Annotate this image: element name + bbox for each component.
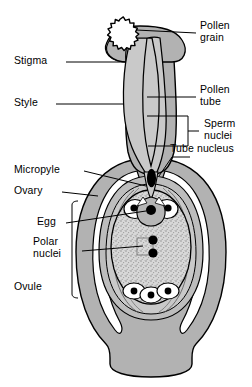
diagram-canvas: Stigma Style Micropyle Ovary Egg Polar n…: [0, 0, 252, 387]
sperm-nuclei: [148, 121, 154, 131]
label-ovary: Ovary: [14, 185, 43, 197]
label-polar-nuclei: Polar nuclei: [33, 236, 61, 259]
egg-nucleus: [146, 205, 156, 215]
label-micropyle: Micropyle: [14, 164, 60, 176]
label-pollen-grain: Pollen grain: [200, 20, 230, 43]
label-ovule: Ovule: [14, 281, 42, 293]
label-style: Style: [14, 97, 38, 109]
label-tube-nucleus: Tube nucleus: [170, 143, 234, 155]
label-egg: Egg: [37, 216, 56, 228]
label-sperm-nuclei: Sperm nuclei: [204, 118, 235, 141]
label-stigma: Stigma: [14, 55, 47, 67]
label-pollen-tube: Pollen tube: [200, 84, 230, 107]
tube-nucleus: [147, 169, 156, 187]
